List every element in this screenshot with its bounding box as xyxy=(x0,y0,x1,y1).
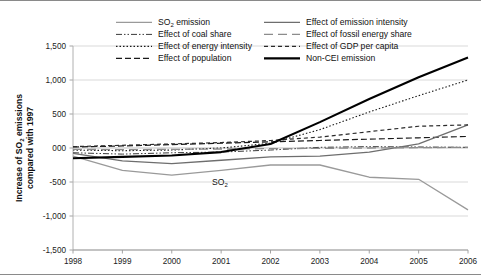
x-tick-label-2003: 2003 xyxy=(311,257,330,266)
x-tick-label-1999: 1999 xyxy=(113,257,132,266)
legend-label-2: Effect of energy intensity xyxy=(158,41,253,51)
so2-decomposition-line-chart: 1,5001,000500000-500-1,000-1,500 1998199… xyxy=(0,1,481,275)
y-axis-title-line-2: compared with 1997 xyxy=(25,107,35,189)
legend-item-5: Effect of fossil energy share xyxy=(264,29,412,39)
legend-label-1: Effect of coal share xyxy=(158,29,232,39)
series-line-7 xyxy=(73,58,468,159)
x-tick-label-2004: 2004 xyxy=(360,257,379,266)
legend-label-3: Effect of population xyxy=(158,53,232,63)
x-tick-label-2001: 2001 xyxy=(212,257,231,266)
y-axis-title-text: Increase of SO2 emissionscompared with 1… xyxy=(14,94,35,202)
y-tick-label-1,000: 1,000 xyxy=(46,76,67,85)
x-tick-label-2002: 2002 xyxy=(261,257,280,266)
y-tick-label-000: 000 xyxy=(52,144,66,153)
legend-label-7: Non-CEI emission xyxy=(306,53,375,63)
annotation-so2-inline: SO2 xyxy=(212,177,228,188)
annotation-subscript: 2 xyxy=(224,182,228,188)
y-tick-label--1,000: -1,000 xyxy=(43,212,67,221)
data-series-layer xyxy=(73,58,468,210)
chart-figure: 1,5001,000500000-500-1,000-1,500 1998199… xyxy=(0,0,481,275)
x-tick-label-2006: 2006 xyxy=(459,257,478,266)
x-tick-label-2000: 2000 xyxy=(163,257,182,266)
plot-annotations: SO2 xyxy=(212,177,228,188)
legend-label-4: Effect of emission intensity xyxy=(306,17,408,27)
x-tick-label-1998: 1998 xyxy=(64,257,83,266)
chart-legend: SO2 emissionEffect of coal shareEffect o… xyxy=(116,17,412,63)
grid-lines xyxy=(70,46,469,250)
legend-item-0: SO2 emission xyxy=(116,17,210,28)
y-axis-title-line-1-tail: emissions xyxy=(14,94,24,139)
legend-item-7: Non-CEI emission xyxy=(264,53,375,63)
legend-label-0: SO2 emission xyxy=(158,17,210,28)
y-axis: 1,5001,000500000-500-1,000-1,500 xyxy=(43,42,73,255)
y-tick-label--1,500: -1,500 xyxy=(43,246,67,255)
legend-label-6: Effect of GDP per capita xyxy=(306,41,399,51)
x-tick-label-2005: 2005 xyxy=(410,257,429,266)
legend-item-3: Effect of population xyxy=(116,53,232,63)
x-axis: 199819992000200120022003200420052006 xyxy=(64,250,478,266)
y-tick-label--500: -500 xyxy=(50,178,67,187)
legend-item-4: Effect of emission intensity xyxy=(264,17,408,27)
legend-label-tail-0: emission xyxy=(174,17,211,27)
y-tick-label-500: 500 xyxy=(52,110,66,119)
y-axis-title: Increase of SO2 emissionscompared with 1… xyxy=(14,94,35,202)
legend-item-1: Effect of coal share xyxy=(116,29,232,39)
series-line-0 xyxy=(73,156,468,210)
legend-label-5: Effect of fossil energy share xyxy=(306,29,412,39)
y-tick-label-1,500: 1,500 xyxy=(46,42,67,51)
